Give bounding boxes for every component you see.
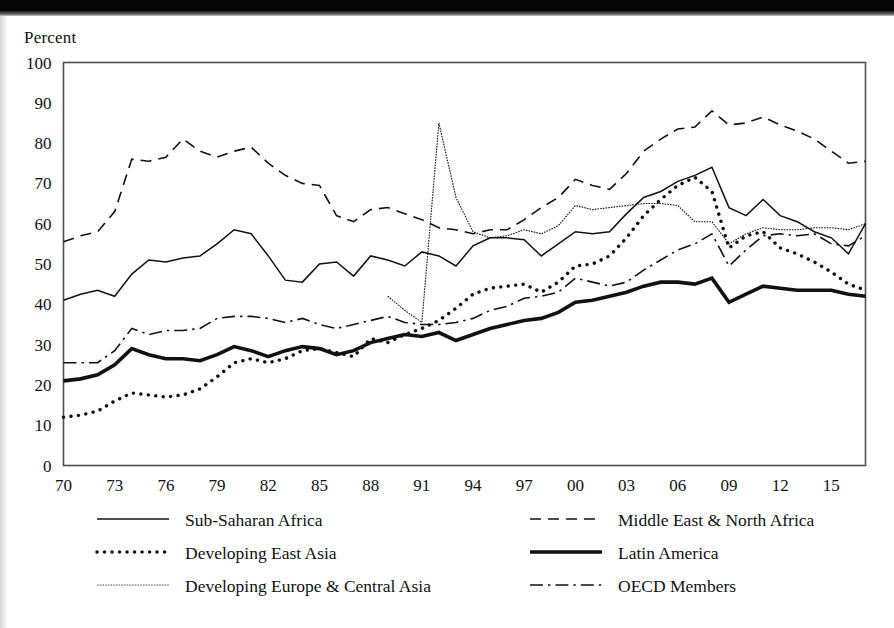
x-tick-label: 09 [720,476,737,495]
legend-label: OECD Members [618,576,736,596]
x-tick-label: 91 [413,476,430,495]
x-tick-label: 82 [260,476,277,495]
y-tick-label: 50 [35,255,52,274]
x-axis-tick-labels: 70737679828588919497000306091215 [55,476,840,495]
legend-label: Middle East & North Africa [618,510,815,530]
x-tick-label: 00 [567,476,584,495]
legend-label: Developing East Asia [185,543,337,563]
x-tick-label: 73 [106,476,123,495]
y-tick-label: 100 [26,54,52,73]
legend-label: Developing Europe & Central Asia [185,576,431,596]
y-tick-label: 10 [35,416,52,435]
legend-label: Sub-Saharan Africa [185,510,323,530]
line-chart: 0102030405060708090100 70737679828588919… [0,0,894,628]
legend-label: Latin America [618,543,719,563]
y-tick-label: 0 [43,457,52,476]
chart-legend: Sub-Saharan AfricaMiddle East & North Af… [97,510,815,596]
chart-canvas: 0102030405060708090100 70737679828588919… [0,0,894,628]
series-line [64,278,866,381]
plot-frame [64,63,866,466]
x-tick-label: 06 [669,476,686,495]
series-line [64,111,866,242]
x-tick-label: 15 [823,476,840,495]
x-tick-label: 88 [362,476,379,495]
x-tick-label: 03 [618,476,635,495]
y-tick-label: 40 [35,295,52,314]
y-tick-label: 20 [35,376,52,395]
y-tick-label: 70 [35,174,52,193]
series-line [64,234,866,363]
x-tick-label: 97 [516,476,534,495]
x-tick-label: 70 [55,476,72,495]
x-tick-label: 85 [311,476,328,495]
y-tick-label: 60 [35,215,52,234]
series-lines [64,111,866,417]
y-tick-label: 30 [35,336,52,355]
y-tick-label: 80 [35,134,52,153]
y-axis-tick-labels: 0102030405060708090100 [26,54,52,476]
y-tick-label: 90 [35,94,52,113]
x-tick-label: 12 [772,476,789,495]
x-tick-label: 76 [157,476,174,495]
x-tick-label: 94 [465,476,483,495]
x-tick-label: 79 [209,476,226,495]
series-line [64,177,866,417]
